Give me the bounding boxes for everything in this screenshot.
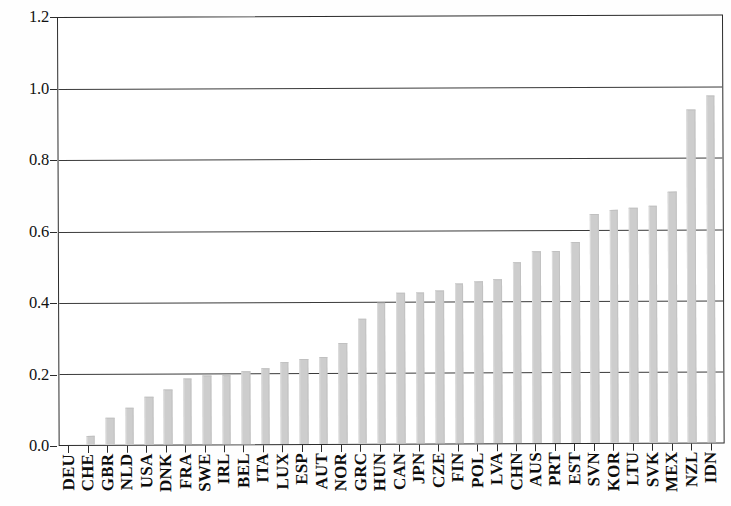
y-tick-mark-0.2 — [50, 375, 57, 376]
x-label-slot-DEU: DEU — [59, 453, 79, 506]
bar-slot-ESP — [293, 17, 314, 444]
bar-CHN — [513, 262, 522, 444]
x-tick-mark-SVK — [652, 444, 653, 451]
bar-SVK — [648, 206, 657, 443]
bar-slot-NZL — [681, 16, 702, 443]
y-axis-label-0.0: 0.0 — [29, 438, 49, 455]
bar-slot-NLD — [118, 18, 139, 445]
x-label-slot-AUS: AUS — [526, 451, 546, 504]
x-axis-label-GBR: GBR — [98, 454, 118, 492]
x-label-slot-LVA: LVA — [487, 451, 507, 504]
x-label-slot-POL: POL — [468, 451, 488, 504]
bar-slot-LTU — [623, 16, 644, 443]
bar-NZL — [687, 110, 697, 443]
x-axis-label-EST: EST — [565, 452, 585, 485]
x-tick-slot-ITA — [254, 445, 273, 452]
y-axis-label-0.2: 0.2 — [29, 366, 49, 383]
x-label-slot-EST: EST — [565, 451, 585, 504]
bar-slot-POL — [468, 16, 489, 443]
x-tick-slot-CHN — [507, 444, 526, 451]
x-axis-label-BEL: BEL — [234, 453, 254, 488]
x-label-slot-KOR: KOR — [604, 451, 624, 504]
bar-GBR — [106, 418, 115, 445]
x-label-slot-BEL: BEL — [234, 452, 254, 505]
x-tick-slot-LTU — [624, 444, 643, 451]
x-label-slot-GRC: GRC — [351, 452, 371, 505]
x-tick-mark-FIN — [458, 444, 459, 451]
bar-slot-IDN — [700, 15, 721, 442]
x-label-slot-NZL: NZL — [682, 451, 702, 504]
x-label-slot-AUT: AUT — [312, 452, 332, 505]
bar-PRT — [551, 251, 560, 443]
x-tick-slot-JPN — [409, 445, 428, 452]
x-label-slot-HUN: HUN — [371, 452, 391, 505]
x-tick-slot-GRC — [351, 445, 370, 452]
y-axis-label-0.6: 0.6 — [29, 223, 49, 240]
y-axis-label-1.0: 1.0 — [29, 80, 49, 97]
x-tick-slot-PRT — [546, 444, 565, 451]
x-tick-mark-IDN — [711, 443, 712, 450]
bar-slot-MEX — [662, 16, 683, 443]
bar-slot-SWE — [196, 17, 217, 444]
x-label-slot-FRA: FRA — [176, 452, 196, 505]
bar-slot-FRA — [176, 17, 197, 444]
x-label-slot-LTU: LTU — [624, 451, 644, 504]
bar-POL — [474, 281, 483, 443]
x-label-slot-IRL: IRL — [215, 452, 235, 505]
bar-slot-GRC — [351, 17, 372, 444]
bar-AUS — [532, 251, 541, 443]
x-tick-labels: DEUCHEGBRNLDUSADNKFRASWEIRLBELITALUXESPA… — [57, 450, 723, 506]
y-tick-mark-1.0 — [50, 89, 57, 90]
y-tick-mark-0.4 — [50, 303, 57, 304]
y-tick-mark-0.6 — [50, 232, 57, 233]
bar-slot-SVN — [584, 16, 605, 443]
x-tick-mark-USA — [146, 446, 147, 453]
bar-slot-EST — [565, 16, 586, 443]
y-tick-mark-1.2 — [50, 17, 57, 18]
x-label-slot-CAN: CAN — [390, 452, 410, 505]
x-axis-label-CAN: CAN — [390, 453, 410, 491]
x-tick-slot-DNK — [156, 446, 175, 453]
x-tick-mark-CAN — [399, 445, 400, 452]
bar-slot-IRL — [215, 17, 236, 444]
x-tick-mark-ITA — [263, 445, 264, 452]
x-label-slot-USA: USA — [137, 453, 157, 506]
x-label-slot-NLD: NLD — [117, 453, 137, 506]
bar-slot-FIN — [448, 16, 469, 443]
bar-slot-LVA — [487, 16, 508, 443]
x-tick-mark-AUS — [535, 444, 536, 451]
x-tick-mark-MEX — [672, 444, 673, 451]
bar-MEX — [668, 192, 677, 443]
x-tick-slot-NZL — [682, 444, 701, 451]
y-axis-label-0.4: 0.4 — [29, 295, 49, 312]
bar-ESP — [300, 359, 309, 444]
bar-CAN — [396, 292, 405, 443]
x-axis-label-ITA: ITA — [253, 453, 273, 483]
bar-series — [58, 15, 724, 445]
bar-IRL — [222, 375, 231, 444]
x-tick-mark-ESP — [302, 445, 303, 452]
x-tick-mark-AUT — [321, 445, 322, 452]
x-label-slot-JPN: JPN — [409, 452, 429, 505]
x-axis-label-NZL: NZL — [682, 452, 702, 488]
x-label-slot-GBR: GBR — [98, 453, 118, 506]
x-tick-slot-SVN — [585, 444, 604, 451]
x-label-slot-ESP: ESP — [293, 452, 313, 505]
x-label-slot-IDN: IDN — [701, 450, 721, 503]
x-axis-label-AUT: AUT — [312, 453, 332, 490]
x-tick-mark-IRL — [224, 445, 225, 452]
bar-slot-ITA — [254, 17, 275, 444]
x-tick-slot-FIN — [448, 444, 467, 451]
bar-slot-USA — [138, 18, 159, 445]
x-axis-label-NLD: NLD — [117, 454, 137, 491]
x-axis-label-FIN: FIN — [448, 452, 468, 482]
bar-chart: 0.00.20.40.60.81.01.2 DEUCHEGBRNLDUSADNK… — [0, 0, 731, 506]
x-axis-label-DNK: DNK — [156, 454, 176, 492]
bar-slot-AUT — [312, 17, 333, 444]
x-tick-mark-SVN — [594, 444, 595, 451]
x-tick-mark-KOR — [613, 444, 614, 451]
x-tick-mark-SWE — [205, 445, 206, 452]
x-tick-mark-CHN — [516, 444, 517, 451]
x-axis-label-NOR: NOR — [331, 453, 351, 491]
x-axis-label-CHE: CHE — [78, 454, 98, 492]
